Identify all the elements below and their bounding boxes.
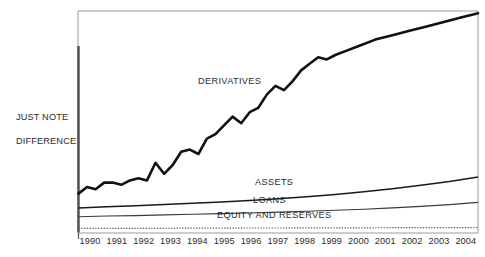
x-tick-label-1994: 1994 bbox=[185, 236, 209, 246]
chart-figure: JUST NOTE DIFFERENCE DERIVATIVES ASSETS … bbox=[0, 0, 485, 257]
series-line-derivatives bbox=[79, 13, 479, 193]
x-tick-label-2004: 2004 bbox=[454, 236, 478, 246]
series-label-derivatives: DERIVATIVES bbox=[198, 76, 261, 86]
series-line-equity-and-reserves bbox=[79, 228, 479, 229]
x-tick-label-2000: 2000 bbox=[346, 236, 370, 246]
series-label-loans: LOANS bbox=[253, 195, 286, 205]
x-tick-label-1995: 1995 bbox=[212, 236, 236, 246]
y-axis-title-line-1: JUST NOTE bbox=[16, 112, 68, 122]
x-tick-label-1992: 1992 bbox=[132, 236, 156, 246]
x-tick-label-1996: 1996 bbox=[239, 236, 263, 246]
x-tick-label-1993: 1993 bbox=[159, 236, 183, 246]
x-tick-label-1998: 1998 bbox=[293, 236, 317, 246]
x-tick-label-2003: 2003 bbox=[427, 236, 451, 246]
x-tick-label-2001: 2001 bbox=[373, 236, 397, 246]
x-tick-label-1997: 1997 bbox=[266, 236, 290, 246]
x-tick-label-1991: 1991 bbox=[105, 236, 129, 246]
x-tick-label-1999: 1999 bbox=[320, 236, 344, 246]
y-axis-title: JUST NOTE DIFFERENCE bbox=[16, 99, 102, 147]
x-axis-tick-labels: 1990199119921993199419951996199719981999… bbox=[78, 236, 478, 246]
x-tick-label-2002: 2002 bbox=[400, 236, 424, 246]
series-label-equity-and-reserves: EQUITY AND RESERVES bbox=[217, 210, 332, 220]
y-axis-title-line-2: DIFFERENCE bbox=[16, 136, 76, 146]
series-label-assets: ASSETS bbox=[255, 177, 293, 187]
x-tick-label-1990: 1990 bbox=[78, 236, 102, 246]
